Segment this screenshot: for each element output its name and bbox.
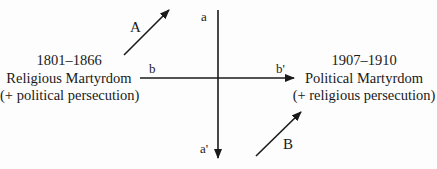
left-period-block: 1801–1866 Religious Martyrdom (+ politic… <box>0 52 138 105</box>
right-period-title: Political Martyrdom <box>290 70 437 88</box>
label-arrow-b: B <box>283 137 293 152</box>
label-arrow-a: A <box>130 20 141 35</box>
right-period-block: 1907–1910 Political Martyrdom (+ religio… <box>290 52 437 105</box>
martyrdom-diagram: 1801–1866 Religious Martyrdom (+ politic… <box>0 0 437 169</box>
label-a: a <box>201 10 207 23</box>
label-b-prime: b' <box>276 62 285 75</box>
left-period-note: (+ political persecution) <box>0 87 138 105</box>
right-period-years: 1907–1910 <box>290 52 437 70</box>
label-b: b <box>149 62 156 75</box>
left-period-title: Religious Martyrdom <box>0 70 138 88</box>
left-period-years: 1801–1866 <box>0 52 138 70</box>
label-a-prime: a' <box>200 142 208 155</box>
right-period-note: (+ religious persecution) <box>290 87 437 105</box>
arrow-b <box>256 112 301 156</box>
